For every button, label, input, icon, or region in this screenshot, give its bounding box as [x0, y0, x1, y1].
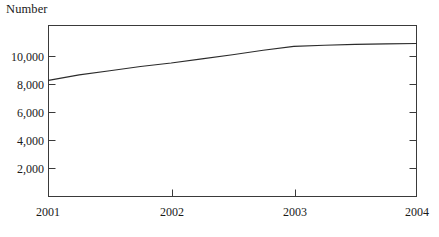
series-line-number	[49, 44, 417, 81]
chart-container: Number 10,000 8,000 6,000 4,000 2,000 20…	[0, 0, 439, 237]
x-axis-ticks	[173, 190, 296, 197]
y-axis-ticks-right	[410, 57, 417, 169]
y-axis-ticks-left	[49, 57, 56, 169]
plot-area	[0, 0, 439, 237]
plot-frame	[49, 26, 417, 197]
